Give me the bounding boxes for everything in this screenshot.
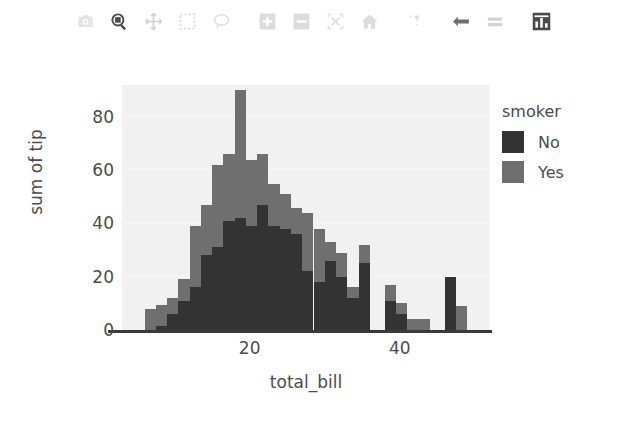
legend[interactable]: smoker NoYes xyxy=(502,102,622,191)
bar-segment-no[interactable] xyxy=(212,247,223,330)
bar-segment-yes[interactable] xyxy=(257,154,268,205)
bar-segment-yes[interactable] xyxy=(280,194,291,229)
histogram-bar[interactable] xyxy=(280,85,291,330)
histogram-bar[interactable] xyxy=(223,85,234,330)
bar-segment-yes[interactable] xyxy=(212,165,223,248)
box-select-icon[interactable] xyxy=(172,6,202,36)
histogram-bar[interactable] xyxy=(456,85,467,330)
plotly-modebar[interactable] xyxy=(0,0,626,42)
bar-segment-yes[interactable] xyxy=(419,319,430,330)
bar-segment-yes[interactable] xyxy=(396,303,407,314)
histogram-bar[interactable] xyxy=(291,85,302,330)
bar-segment-yes[interactable] xyxy=(359,245,370,264)
hover-compare-icon[interactable] xyxy=(480,6,510,36)
histogram-bar[interactable] xyxy=(145,85,156,330)
spike-lines-icon[interactable] xyxy=(400,6,430,36)
bar-segment-no[interactable] xyxy=(178,301,189,330)
bar-segment-yes[interactable] xyxy=(235,90,246,218)
bar-segment-yes[interactable] xyxy=(385,285,396,301)
chart-container: 020406080 2040 sum of tip total_bill smo… xyxy=(0,42,626,426)
bar-segment-yes[interactable] xyxy=(268,184,279,227)
histogram-bar[interactable] xyxy=(314,85,325,330)
legend-item[interactable]: Yes xyxy=(502,161,622,183)
histogram-bar[interactable] xyxy=(419,85,430,330)
bar-segment-no[interactable] xyxy=(167,314,178,330)
bar-segment-no[interactable] xyxy=(385,301,396,330)
histogram-bar[interactable] xyxy=(359,85,370,330)
bar-segment-no[interactable] xyxy=(314,282,325,330)
x-tick-label: 40 xyxy=(370,338,430,358)
lasso-select-icon[interactable] xyxy=(206,6,236,36)
bar-segment-yes[interactable] xyxy=(314,229,325,282)
bar-segment-yes[interactable] xyxy=(167,298,178,314)
bar-segment-no[interactable] xyxy=(268,226,279,330)
bar-segment-yes[interactable] xyxy=(246,160,257,227)
bar-segment-no[interactable] xyxy=(336,277,347,330)
bar-segment-yes[interactable] xyxy=(223,154,234,221)
histogram-bar[interactable] xyxy=(178,85,189,330)
bar-segment-yes[interactable] xyxy=(178,279,189,300)
zoom-out-icon[interactable] xyxy=(286,6,316,36)
home-icon[interactable] xyxy=(354,6,384,36)
bar-segment-no[interactable] xyxy=(347,298,358,330)
histogram-bar[interactable] xyxy=(325,85,336,330)
histogram-bar[interactable] xyxy=(407,85,418,330)
bar-segment-yes[interactable] xyxy=(156,305,167,326)
x-tick-label: 20 xyxy=(220,338,280,358)
bar-segment-no[interactable] xyxy=(257,205,268,330)
bar-segment-no[interactable] xyxy=(445,277,456,330)
histogram-bar[interactable] xyxy=(246,85,257,330)
y-tick-label: 80 xyxy=(74,109,114,126)
bar-segment-no[interactable] xyxy=(201,255,212,330)
bar-segment-yes[interactable] xyxy=(190,226,201,287)
histogram-bar[interactable] xyxy=(385,85,396,330)
bar-segment-no[interactable] xyxy=(190,287,201,330)
legend-items: NoYes xyxy=(502,131,622,183)
hover-closest-icon[interactable] xyxy=(446,6,476,36)
histogram-bars[interactable] xyxy=(122,85,490,330)
bar-segment-yes[interactable] xyxy=(291,208,302,235)
bar-segment-yes[interactable] xyxy=(145,309,156,330)
histogram-bar[interactable] xyxy=(445,85,456,330)
x-axis-line xyxy=(108,330,492,333)
y-axis-ticklabels: 020406080 xyxy=(62,85,114,330)
histogram-bar[interactable] xyxy=(336,85,347,330)
bar-segment-yes[interactable] xyxy=(336,253,347,277)
bar-segment-yes[interactable] xyxy=(325,242,336,261)
bar-chart-icon[interactable] xyxy=(526,6,556,36)
legend-title: smoker xyxy=(502,102,622,121)
bar-segment-no[interactable] xyxy=(359,263,370,330)
bar-segment-no[interactable] xyxy=(325,261,336,330)
histogram-bar[interactable] xyxy=(212,85,223,330)
histogram-bar[interactable] xyxy=(257,85,268,330)
histogram-bar[interactable] xyxy=(268,85,279,330)
x-axis-title: total_bill xyxy=(186,372,426,392)
legend-item[interactable]: No xyxy=(502,131,622,153)
bar-segment-no[interactable] xyxy=(396,314,407,330)
camera-icon[interactable] xyxy=(70,6,100,36)
bar-segment-yes[interactable] xyxy=(347,287,358,298)
bar-segment-yes[interactable] xyxy=(407,319,418,330)
zoom-icon[interactable] xyxy=(104,6,134,36)
histogram-bar[interactable] xyxy=(396,85,407,330)
bar-segment-no[interactable] xyxy=(223,221,234,330)
y-tick-label: 40 xyxy=(74,215,114,232)
bar-segment-no[interactable] xyxy=(235,218,246,330)
bar-segment-no[interactable] xyxy=(246,226,257,330)
zoom-in-icon[interactable] xyxy=(252,6,282,36)
histogram-bar[interactable] xyxy=(302,85,313,330)
bar-segment-yes[interactable] xyxy=(302,213,313,272)
bar-segment-no[interactable] xyxy=(280,229,291,330)
histogram-bar[interactable] xyxy=(347,85,358,330)
histogram-bar[interactable] xyxy=(167,85,178,330)
autoscale-icon[interactable] xyxy=(320,6,350,36)
bar-segment-yes[interactable] xyxy=(456,306,467,330)
bar-segment-no[interactable] xyxy=(302,271,313,330)
pan-icon[interactable] xyxy=(138,6,168,36)
histogram-bar[interactable] xyxy=(156,85,167,330)
bar-segment-yes[interactable] xyxy=(201,205,212,256)
histogram-bar[interactable] xyxy=(201,85,212,330)
histogram-bar[interactable] xyxy=(235,85,246,330)
bar-segment-no[interactable] xyxy=(291,234,302,330)
histogram-bar[interactable] xyxy=(190,85,201,330)
